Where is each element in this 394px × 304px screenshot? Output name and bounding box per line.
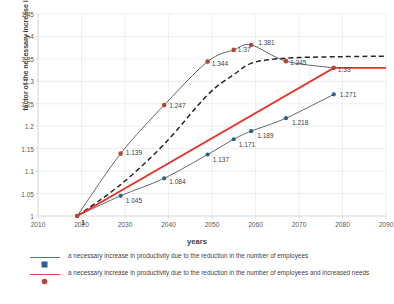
data-label-red: 1.33: [338, 65, 351, 72]
data-label-red: 1.381: [258, 38, 275, 45]
data-point-red: [118, 151, 123, 156]
data-label-red: 1.345: [290, 59, 307, 66]
legend-marker-blue: [41, 254, 48, 261]
trend-line-dashed: [77, 56, 386, 216]
legend-label-1: a necessary increase in productivity due…: [60, 269, 369, 278]
data-point-blue: [332, 92, 336, 96]
legend-marker-red: [41, 271, 48, 278]
data-label-blue: 1.045: [126, 196, 143, 203]
series-line-red-curve: [77, 44, 334, 216]
data-point-blue: [232, 137, 236, 141]
data-point-blue: [249, 129, 253, 133]
data-label-red: 1: [81, 219, 85, 226]
data-point-blue: [162, 176, 166, 180]
legend-key-blue: [30, 253, 60, 262]
legend-item-0[interactable]: a necessary increase in productivity due…: [30, 252, 382, 262]
data-point-blue: [284, 116, 288, 120]
data-point-red: [205, 59, 210, 64]
data-label-blue: 1.271: [340, 91, 357, 98]
legend-item-1[interactable]: a necessary increase in productivity due…: [30, 269, 382, 279]
data-label-red: 1.344: [212, 59, 229, 66]
data-point-red: [162, 103, 167, 108]
legend-label-0: a necessary increase in productivity due…: [60, 252, 308, 261]
legend-key-red: [30, 270, 60, 279]
data-point-red: [231, 48, 236, 53]
data-point-blue: [119, 194, 123, 198]
data-label-blue: 1.137: [213, 155, 230, 162]
data-label-blue: 1.189: [257, 132, 274, 139]
data-point-red: [284, 59, 289, 64]
data-label-blue: 1.218: [292, 119, 309, 126]
data-label-blue: 1.171: [239, 141, 256, 148]
data-label-red: 1.139: [126, 148, 143, 155]
chart-legend: a necessary increase in productivity due…: [30, 252, 382, 286]
data-point-red: [332, 66, 337, 71]
data-point-red: [75, 214, 80, 219]
data-label-red: 1.37: [238, 45, 251, 52]
series-line-blue-curve: [77, 94, 334, 216]
data-label-red: 1.247: [169, 102, 186, 109]
plot-area: [0, 0, 394, 250]
data-point-blue: [206, 152, 210, 156]
chart-container: factor of the necessary increase in prod…: [0, 0, 394, 304]
data-label-blue: 1.084: [169, 178, 186, 185]
